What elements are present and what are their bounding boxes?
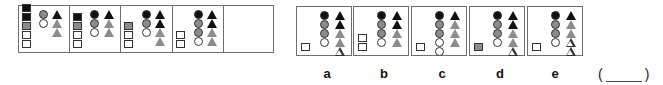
triangle-column: [104, 10, 114, 37]
option-e-label[interactable]: e: [545, 66, 565, 81]
square-black-icon: [22, 13, 31, 21]
circle-gray-icon: [194, 19, 203, 28]
option-a-label[interactable]: a: [317, 66, 337, 81]
triangle-black-icon: [508, 11, 518, 20]
triangle-black-icon: [207, 10, 217, 19]
triangle-gray-icon: [155, 37, 165, 46]
sequence-row: [18, 5, 274, 53]
circle-gray-icon: [90, 19, 99, 28]
option-c-box[interactable]: [411, 6, 467, 56]
square-black-icon: [73, 13, 82, 21]
circle-gray-icon: [377, 20, 386, 29]
square-black-icon: [22, 4, 31, 12]
triangle-column: [207, 10, 217, 46]
triangle-column: [450, 11, 460, 47]
circle-column: [320, 11, 329, 47]
square-column: [416, 43, 425, 52]
square-white-icon: [124, 40, 133, 48]
triangle-column: [52, 10, 62, 37]
square-column: [358, 34, 367, 52]
triangle-white-icon: [566, 47, 576, 56]
sequence-panel-2: [70, 6, 122, 52]
circle-column: [493, 11, 502, 47]
option-b-label[interactable]: b: [374, 66, 394, 81]
option-d-box[interactable]: [469, 6, 525, 56]
square-white-icon: [73, 40, 82, 48]
triangle-black-icon: [52, 10, 62, 19]
square-column: [532, 43, 541, 52]
triangle-black-icon: [508, 20, 518, 29]
circle-gray-icon: [493, 29, 502, 38]
triangle-black-icon: [392, 11, 402, 20]
circle-white-icon: [320, 38, 329, 47]
triangle-black-icon: [155, 19, 165, 28]
square-gray-icon: [124, 22, 133, 30]
circle-column: [377, 11, 386, 47]
triangle-gray-icon: [450, 38, 460, 47]
circle-gray-icon: [493, 20, 502, 29]
square-gray-icon: [73, 22, 82, 30]
triangle-column: [392, 11, 402, 47]
answer-blank[interactable]: ( ): [598, 66, 649, 82]
triangle-black-icon: [335, 11, 345, 20]
sequence-panel-3: [121, 6, 173, 52]
circle-column: [39, 10, 48, 28]
circle-black-icon: [90, 10, 99, 19]
circle-white-icon: [142, 28, 151, 37]
circle-white-icon: [377, 38, 386, 47]
circle-gray-icon: [320, 20, 329, 29]
circle-black-icon: [142, 10, 151, 19]
circle-column: [90, 10, 99, 37]
circle-white-icon: [493, 38, 502, 47]
option-c-label[interactable]: c: [432, 66, 452, 81]
circle-white-icon: [90, 28, 99, 37]
triangle-white-icon: [566, 38, 576, 47]
triangle-column: [335, 11, 345, 56]
triangle-black-icon: [566, 11, 576, 20]
square-white-icon: [358, 34, 367, 42]
triangle-gray-icon: [155, 28, 165, 37]
circle-black-icon: [377, 11, 386, 20]
circle-gray-icon: [377, 29, 386, 38]
circle-black-icon: [551, 11, 560, 20]
answer-input-line[interactable]: [606, 67, 642, 82]
circle-column: [194, 10, 203, 46]
circle-gray-icon: [551, 29, 560, 38]
sequence-panel-4: [173, 6, 225, 52]
triangle-gray-icon: [52, 28, 62, 37]
triangle-black-icon: [104, 10, 114, 19]
circle-column: [142, 10, 151, 37]
circle-black-icon: [435, 11, 444, 20]
triangle-gray-icon: [450, 29, 460, 38]
square-white-icon: [176, 40, 185, 48]
triangle-gray-icon: [104, 28, 114, 37]
answer-open-paren: (: [598, 66, 603, 82]
circle-column: [435, 11, 444, 56]
triangle-column: [508, 11, 518, 56]
option-b-box[interactable]: [353, 6, 409, 56]
circle-gray-icon: [194, 28, 203, 37]
triangle-gray-icon: [335, 29, 345, 38]
square-white-icon: [532, 43, 541, 51]
square-column: [301, 43, 310, 52]
square-column: [22, 4, 31, 49]
circle-white-icon: [435, 47, 444, 56]
circle-white-icon: [39, 19, 48, 28]
square-white-icon: [124, 31, 133, 39]
triangle-gray-icon: [52, 19, 62, 28]
square-white-icon: [22, 40, 31, 48]
triangle-column: [566, 11, 576, 56]
option-d-label[interactable]: d: [490, 66, 510, 81]
triangle-gray-icon: [104, 19, 114, 28]
triangle-gray-icon: [392, 38, 402, 47]
triangle-gray-icon: [207, 28, 217, 37]
circle-column: [551, 11, 560, 47]
triangle-black-icon: [207, 19, 217, 28]
option-a-box[interactable]: [296, 6, 352, 56]
option-e-box[interactable]: [527, 6, 583, 56]
triangle-gray-icon: [450, 20, 460, 29]
square-column: [474, 43, 483, 52]
triangle-gray-icon: [566, 20, 576, 29]
square-white-icon: [416, 43, 425, 51]
sequence-panel-missing: [224, 6, 273, 52]
